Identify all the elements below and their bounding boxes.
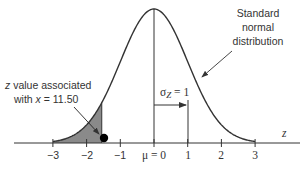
tick-label-minus1: −1 (114, 149, 126, 161)
distribution-label-line1: Standard (237, 7, 280, 19)
tick-label-minus2: −2 (81, 149, 93, 161)
tick-label-minus3: −3 (47, 149, 59, 161)
distribution-label-line3: distribution (233, 35, 284, 47)
normal-distribution-chart: σZ = 1 Standard normal distribution z va… (0, 0, 302, 169)
tick-label-3: 3 (252, 149, 258, 161)
shaded-tail-region (53, 103, 102, 143)
tick-label-1: 1 (185, 149, 191, 161)
z-value-point (100, 134, 108, 142)
tick-label-2: 2 (218, 149, 224, 161)
axis-variable-label: z (281, 127, 287, 139)
tick-label-mean: μ = 0 (142, 149, 166, 162)
z-value-label-line2: with x = 11.50 (13, 93, 78, 105)
sigma-label: σZ = 1 (160, 86, 189, 100)
distribution-label-line2: normal (242, 21, 274, 33)
z-value-label-line1: z value associated (4, 79, 92, 91)
distribution-pointer-arrow (202, 51, 232, 77)
